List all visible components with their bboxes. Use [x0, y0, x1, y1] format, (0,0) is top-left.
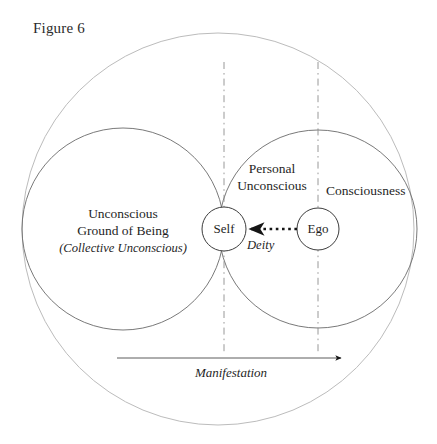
- consciousness-label: Consciousness: [326, 182, 406, 199]
- figure-canvas: Figure 6 Unconscious Ground of Being (Co…: [0, 0, 437, 444]
- unconscious-ground-label-line2: Ground of Being: [59, 222, 187, 239]
- self-node-label: Self: [214, 221, 235, 237]
- ego-node-label: Ego: [308, 221, 329, 237]
- figure-title: Figure 6: [33, 20, 85, 37]
- deity-label: Deity: [247, 237, 274, 253]
- unconscious-ground-label: Unconscious Ground of Being (Collective …: [59, 205, 187, 256]
- manifestation-label: Manifestation: [195, 365, 267, 382]
- personal-unconscious-label: Personal Unconscious: [237, 160, 307, 195]
- unconscious-ground-label-line1: Unconscious: [59, 205, 187, 222]
- unconscious-ground-label-line3: (Collective Unconscious): [59, 240, 187, 256]
- personal-unconscious-label-line1: Personal: [237, 160, 307, 177]
- personal-unconscious-label-line2: Unconscious: [237, 177, 307, 194]
